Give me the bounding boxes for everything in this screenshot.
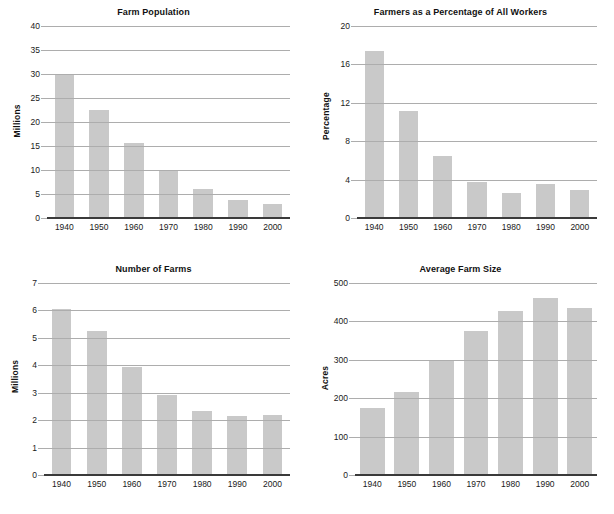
x-tick-label: 1980 <box>193 479 212 489</box>
y-tick-label: 25 <box>31 93 47 103</box>
gridline <box>44 365 290 366</box>
chart-panel-average-farm-size: Average Farm Size Acres 0100200300400500… <box>307 257 614 514</box>
gridline <box>47 122 290 123</box>
bar <box>87 331 107 475</box>
gridline <box>357 64 597 65</box>
x-axis-line <box>47 217 290 219</box>
gridline <box>44 283 290 284</box>
x-tick-label: 1990 <box>228 479 247 489</box>
gridline <box>47 74 290 75</box>
x-tick-label: 1940 <box>55 222 74 232</box>
charts-grid: Farm Population Millions 051015202530354… <box>0 0 614 514</box>
chart-panel-farmers-percentage: Farmers as a Percentage of All Workers P… <box>307 0 614 257</box>
gridline <box>47 26 290 27</box>
x-tick-label: 1950 <box>397 479 416 489</box>
gridline <box>357 26 597 27</box>
bar <box>464 331 489 475</box>
chart-panel-number-of-farms: Number of Farms Millions 012345671940195… <box>0 257 307 514</box>
y-tick-label: 35 <box>31 45 47 55</box>
gridline <box>44 420 290 421</box>
y-tick-label: 4 <box>345 175 357 185</box>
x-tick-label: 1960 <box>122 479 141 489</box>
y-tick-label: 0 <box>35 213 47 223</box>
y-axis-label: Percentage <box>321 102 331 140</box>
bar <box>399 111 418 218</box>
y-tick-label: 200 <box>334 393 355 403</box>
plot-area: 0481216201940195019601970198019902000 <box>357 26 597 218</box>
y-tick-label: 40 <box>31 21 47 31</box>
y-tick-label: 15 <box>31 141 47 151</box>
x-axis-line <box>357 217 597 219</box>
plot-area: 0510152025303540194019501960197019801990… <box>47 26 290 218</box>
bar <box>263 204 282 218</box>
x-tick-label: 1960 <box>124 222 143 232</box>
bar <box>394 392 419 475</box>
chart-title: Number of Farms <box>0 264 307 274</box>
x-tick-label: 2000 <box>263 479 282 489</box>
x-tick-label: 1970 <box>158 479 177 489</box>
gridline <box>355 283 597 284</box>
y-tick-label: 2 <box>32 415 44 425</box>
x-tick-label: 1960 <box>433 222 452 232</box>
plot-area: 012345671940195019601970198019902000 <box>44 283 290 475</box>
bar <box>429 360 454 475</box>
bars-container <box>355 283 597 475</box>
x-tick-label: 1970 <box>159 222 178 232</box>
y-tick-label: 12 <box>341 98 357 108</box>
y-tick-label: 6 <box>32 305 44 315</box>
bar <box>433 156 452 218</box>
x-axis-line <box>355 474 597 476</box>
bar <box>533 298 558 475</box>
y-tick-label: 16 <box>341 59 357 69</box>
y-tick-label: 0 <box>345 213 357 223</box>
y-tick-label: 400 <box>334 316 355 326</box>
bar <box>89 110 108 218</box>
bar <box>536 184 555 218</box>
x-tick-label: 1960 <box>432 479 451 489</box>
y-tick-label: 8 <box>345 136 357 146</box>
gridline <box>47 146 290 147</box>
bar <box>157 395 177 475</box>
bar <box>498 311 523 475</box>
x-tick-label: 1980 <box>501 479 520 489</box>
x-tick-label: 1940 <box>363 479 382 489</box>
y-axis-label: Acres <box>320 360 330 396</box>
bar <box>365 51 384 218</box>
y-tick-label: 20 <box>31 117 47 127</box>
x-tick-label: 1980 <box>194 222 213 232</box>
y-tick-label: 100 <box>334 432 355 442</box>
y-tick-label: 5 <box>35 189 47 199</box>
bar <box>567 308 592 475</box>
y-tick-label: 30 <box>31 69 47 79</box>
gridline <box>355 437 597 438</box>
gridline <box>357 103 597 104</box>
x-tick-label: 1990 <box>228 222 247 232</box>
bar <box>570 190 589 218</box>
bar <box>467 182 486 218</box>
y-tick-label: 7 <box>32 278 44 288</box>
bar <box>502 193 521 218</box>
gridline <box>47 98 290 99</box>
x-axis-line <box>44 474 290 476</box>
x-tick-label: 2000 <box>570 222 589 232</box>
chart-title: Farmers as a Percentage of All Workers <box>307 7 614 17</box>
y-tick-label: 300 <box>334 355 355 365</box>
y-axis-label: Millions <box>10 363 20 393</box>
x-tick-label: 1950 <box>87 479 106 489</box>
x-tick-label: 2000 <box>570 479 589 489</box>
gridline <box>47 170 290 171</box>
gridline <box>44 393 290 394</box>
gridline <box>44 448 290 449</box>
bar <box>124 143 143 218</box>
y-tick-label: 3 <box>32 388 44 398</box>
gridline <box>357 141 597 142</box>
bar <box>228 200 247 218</box>
bars-container <box>44 283 290 475</box>
chart-title: Farm Population <box>0 7 307 17</box>
gridline <box>44 310 290 311</box>
plot-area: 0100200300400500194019501960197019801990… <box>355 283 597 475</box>
y-tick-label: 0 <box>343 470 355 480</box>
x-tick-label: 1970 <box>467 479 486 489</box>
x-tick-label: 1950 <box>399 222 418 232</box>
gridline <box>44 338 290 339</box>
